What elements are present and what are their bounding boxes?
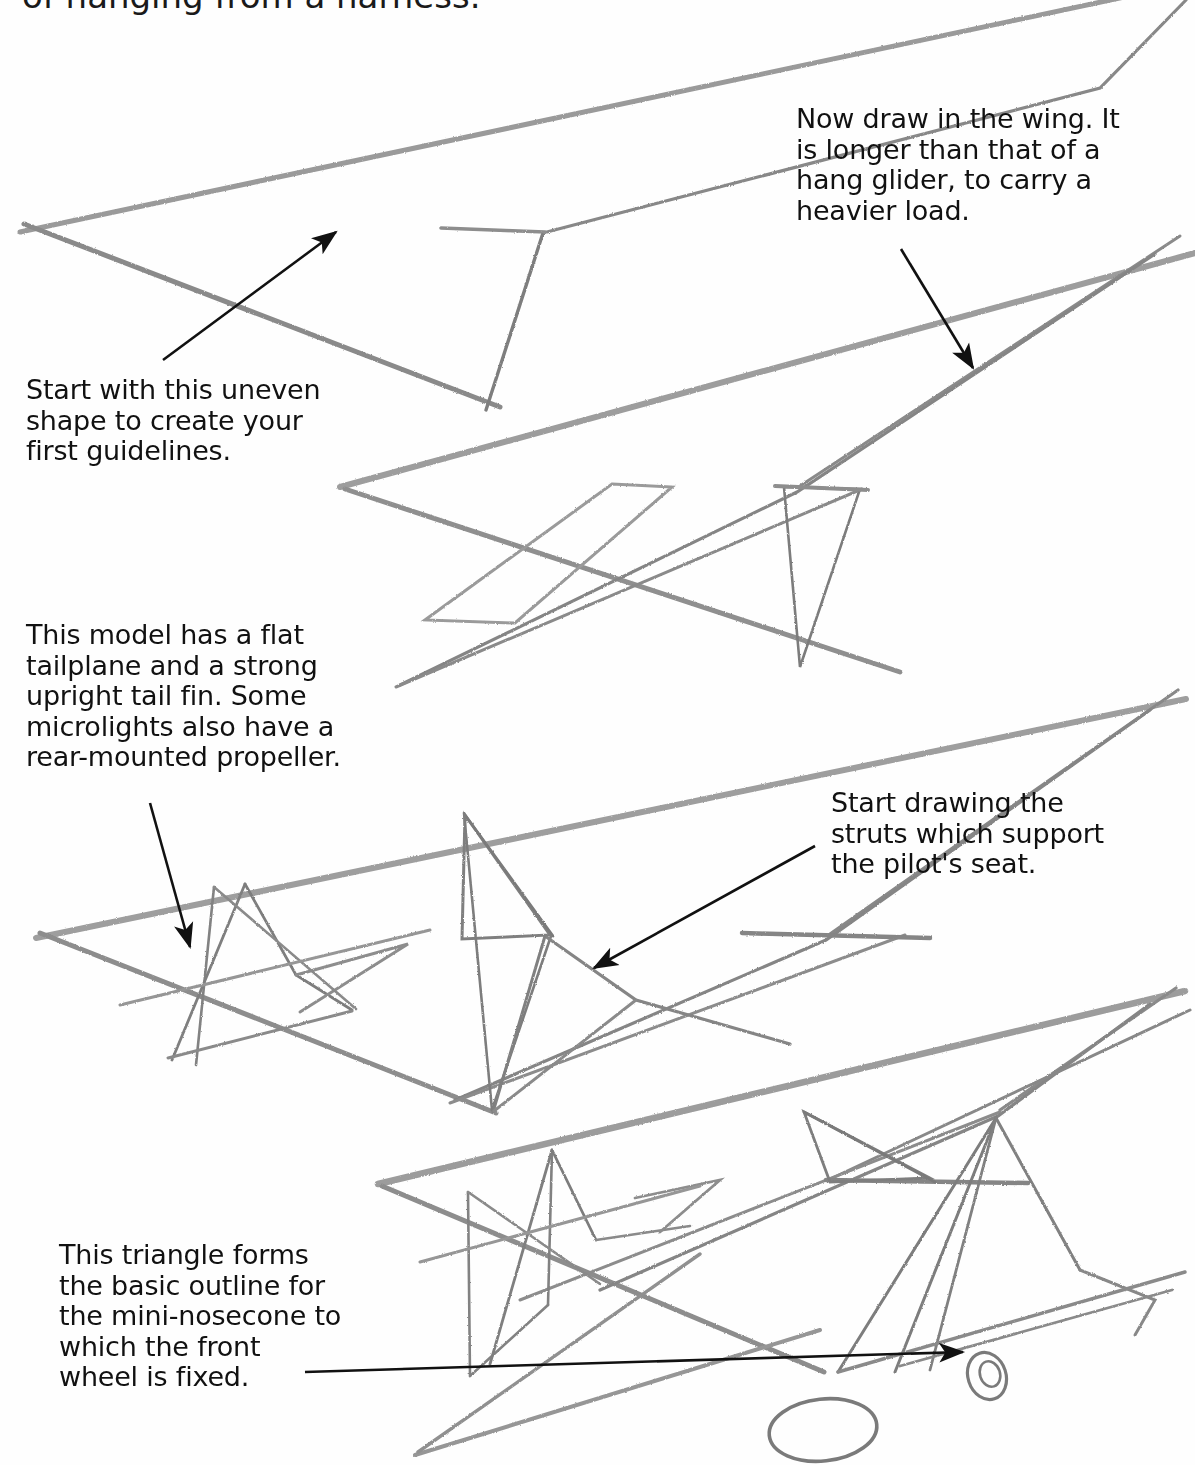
nosecone-ellipse xyxy=(766,1394,880,1465)
arrow-to-tailplane xyxy=(150,803,190,947)
cut-off-caption-harness: of hanging from a harness. xyxy=(22,0,642,14)
front-wheel-inner xyxy=(976,1359,1003,1390)
arrow-to-nosecone xyxy=(305,1352,963,1372)
front-wheel-outer xyxy=(962,1347,1013,1404)
arrow-to-struts xyxy=(594,846,815,968)
caption-wing: Now draw in the wing. It is longer than … xyxy=(796,104,1156,226)
caption-struts: Start drawing the struts which support t… xyxy=(831,788,1181,880)
sketch-step-4-nosecone-and-wheels xyxy=(378,988,1190,1455)
arrow-to-first-shape xyxy=(163,232,336,360)
caption-nosecone: This triangle forms the basic outline fo… xyxy=(59,1240,389,1393)
caption-start-shape: Start with this uneven shape to create y… xyxy=(26,375,386,467)
caption-tailplane: This model has a flat tailplane and a st… xyxy=(26,620,406,773)
arrow-to-wing xyxy=(901,249,973,368)
sketch-step-2-wing xyxy=(340,236,1195,687)
